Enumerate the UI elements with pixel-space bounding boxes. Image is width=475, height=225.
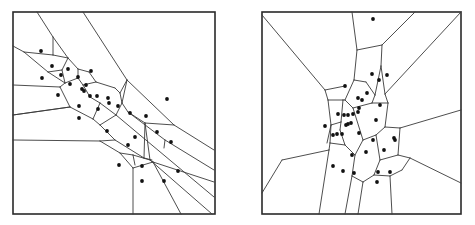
voronoi-site-point — [341, 169, 345, 173]
voronoi-edge — [380, 155, 398, 160]
voronoi-edge — [376, 135, 380, 160]
frame-right — [262, 12, 461, 214]
voronoi-site-point — [357, 106, 361, 110]
voronoi-sites-right — [323, 17, 397, 184]
voronoi-site-point — [331, 164, 335, 168]
voronoi-edge — [398, 128, 400, 155]
voronoi-edge — [385, 127, 400, 128]
voronoi-edge — [354, 50, 357, 80]
voronoi-edge — [376, 127, 385, 135]
voronoi-edge — [358, 182, 363, 214]
voronoi-edge — [381, 45, 382, 66]
voronoi-edge — [325, 90, 328, 100]
voronoi-edge — [398, 155, 410, 158]
voronoi-site-point — [376, 170, 380, 174]
voronoi-edge — [262, 15, 325, 90]
voronoi-edge — [372, 95, 375, 103]
voronoi-site-point — [350, 153, 354, 157]
voronoi-edge — [385, 94, 388, 103]
voronoi-edge — [329, 143, 330, 150]
voronoi-edge — [354, 80, 366, 82]
voronoi-site-point — [365, 91, 369, 95]
voronoi-site-point — [349, 121, 353, 125]
voronoi-edge — [330, 143, 345, 145]
voronoi-site-point — [340, 132, 344, 136]
voronoi-site-point — [344, 123, 348, 127]
voronoi-site-point — [371, 17, 375, 21]
voronoi-site-point — [343, 84, 347, 88]
voronoi-site-point — [371, 138, 375, 142]
voronoi-svg-right — [0, 0, 475, 225]
voronoi-edge — [352, 176, 363, 182]
voronoi-edge — [410, 158, 461, 183]
voronoi-edge — [331, 122, 341, 125]
voronoi-edge — [345, 80, 354, 100]
voronoi-site-point — [335, 132, 339, 136]
voronoi-edge — [262, 160, 282, 193]
voronoi-edge — [400, 110, 461, 128]
voronoi-edges-right — [262, 12, 461, 214]
voronoi-site-point — [370, 72, 374, 76]
voronoi-site-point — [377, 78, 381, 82]
voronoi-edge — [282, 150, 329, 160]
voronoi-edge — [402, 158, 410, 170]
voronoi-site-point — [357, 131, 361, 135]
voronoi-edge — [385, 103, 388, 127]
voronoi-site-point — [392, 136, 396, 140]
voronoi-edge — [345, 100, 353, 108]
voronoi-edge — [345, 176, 352, 214]
voronoi-site-point — [342, 113, 346, 117]
voronoi-site-point — [364, 150, 368, 154]
voronoi-edge — [328, 100, 331, 125]
voronoi-edge — [345, 145, 355, 155]
voronoi-site-point — [360, 98, 364, 102]
voronoi-site-point — [323, 124, 327, 128]
voronoi-edge — [353, 103, 372, 108]
voronoi-site-point — [374, 118, 378, 122]
voronoi-edge — [382, 12, 415, 45]
voronoi-edge — [325, 86, 345, 90]
voronoi-edge — [390, 170, 402, 176]
voronoi-edge — [319, 150, 329, 214]
voronoi-site-point — [356, 96, 360, 100]
voronoi-site-point — [346, 113, 350, 117]
voronoi-edge — [355, 140, 363, 155]
voronoi-site-point — [382, 148, 386, 152]
voronoi-edge — [374, 175, 390, 176]
voronoi-site-point — [378, 103, 382, 107]
voronoi-edge — [390, 176, 392, 214]
voronoi-edge — [381, 66, 385, 94]
voronoi-edge — [385, 12, 461, 94]
voronoi-site-point — [352, 171, 356, 175]
voronoi-site-point — [385, 73, 389, 77]
voronoi-edge — [352, 12, 357, 50]
voronoi-edge — [341, 100, 343, 122]
voronoi-edge — [340, 122, 341, 130]
voronoi-site-point — [351, 112, 355, 116]
voronoi-site-point — [356, 110, 360, 114]
voronoi-site-point — [331, 133, 335, 137]
voronoi-site-point — [336, 112, 340, 116]
voronoi-site-point — [388, 170, 392, 174]
voronoi-edge — [357, 45, 382, 50]
voronoi-edge — [363, 175, 374, 182]
voronoi-site-point — [375, 180, 379, 184]
